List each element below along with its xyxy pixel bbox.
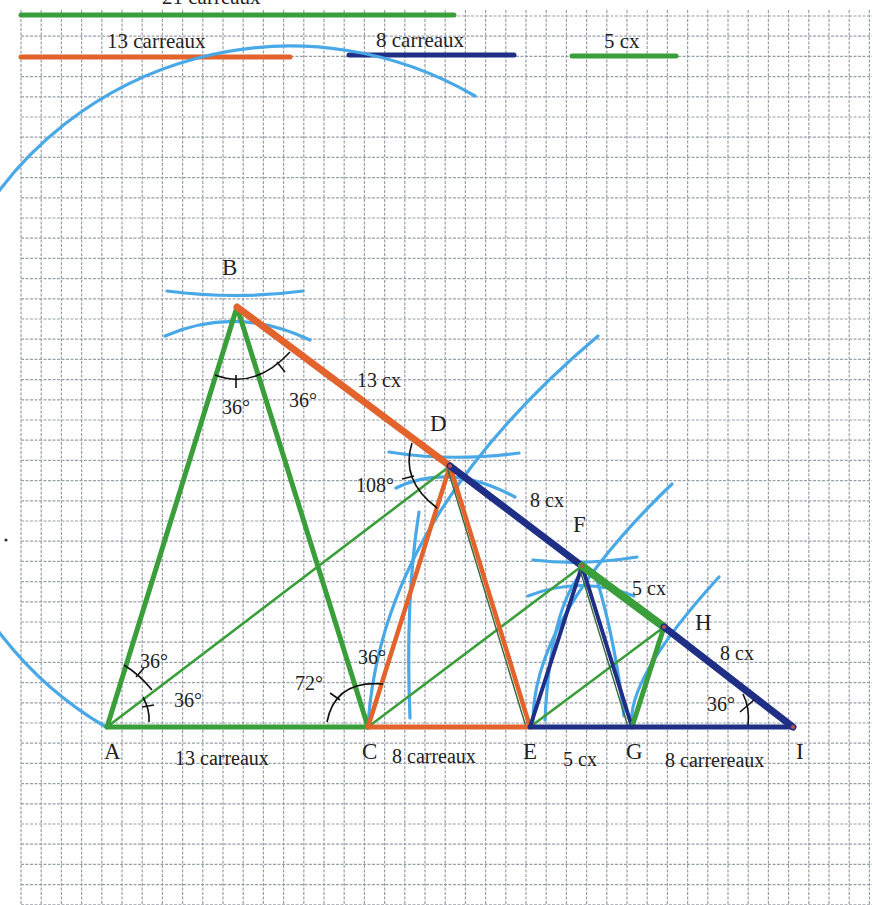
label-angle-B-left: 36° <box>222 396 250 418</box>
label-D: D <box>430 411 447 436</box>
label-C: C <box>362 739 377 764</box>
label-seg-DF: 8 cx <box>530 489 564 511</box>
legend-label-5: 5 cx <box>604 29 640 53</box>
legend-label-8: 8 carreaux <box>376 28 465 52</box>
thin-diagonals <box>107 466 664 727</box>
label-angle-D-108: 108° <box>356 474 394 496</box>
label-I: I <box>796 739 804 764</box>
label-A: A <box>104 739 121 764</box>
label-G: G <box>626 739 643 764</box>
label-seg-HI: 8 cx <box>720 642 754 664</box>
tick-I <box>740 700 754 712</box>
label-angle-C-72: 72° <box>295 672 323 694</box>
legend-label-13: 13 carreaux <box>107 29 206 53</box>
side-E-F <box>530 566 582 727</box>
stray-dot <box>4 538 7 541</box>
label-angle-A-upper: 36° <box>140 650 168 672</box>
side-A-B <box>107 307 237 727</box>
dot-H <box>662 625 666 629</box>
arc-cross-B-1 <box>167 291 303 296</box>
label-seg-CE: 8 carreaux <box>392 745 476 767</box>
label-angle-B-right: 36° <box>289 389 317 411</box>
arc-cross-B-2 <box>165 321 310 340</box>
label-seg-EG: 5 cx <box>563 748 597 770</box>
angle-marks <box>124 352 754 725</box>
dot-D <box>448 464 452 468</box>
label-B: B <box>222 255 237 280</box>
label-seg-FH: 5 cx <box>632 577 666 599</box>
side-D-E <box>450 466 530 727</box>
point-labels: A B C D E F G H I <box>104 255 804 764</box>
golden-triangle-construction-diagram: 21 carreaux 13 carreaux 8 carreaux 5 cx <box>0 0 872 905</box>
label-F: F <box>573 512 586 537</box>
side-B-C <box>237 307 368 727</box>
arc-F-down <box>597 580 624 716</box>
label-seg-GI: 8 carrereaux <box>665 749 764 771</box>
label-angle-A-lower: 36° <box>174 689 202 711</box>
angle-mark-A-lower <box>143 697 149 722</box>
tick-A-lower <box>142 705 154 707</box>
arc-A-radius-AC <box>0 46 475 727</box>
arc-C-through-D <box>368 336 598 727</box>
arc-D-down-1 <box>409 512 419 718</box>
label-seg-BD: 13 cx <box>357 369 401 391</box>
label-angle-C-36: 36° <box>358 646 386 668</box>
legend-label-21: 21 carreaux <box>162 0 261 9</box>
side-B-D <box>237 307 450 466</box>
label-angle-I-36: 36° <box>707 693 735 715</box>
angle-labels: 36° 36° 36° 36° 72° 36° 108° 36° <box>140 389 735 715</box>
arc-G-through-H <box>632 577 719 727</box>
label-seg-AC: 13 carreaux <box>175 747 269 769</box>
dot-F <box>580 564 584 568</box>
legend: 21 carreaux 13 carreaux 8 carreaux 5 cx <box>21 0 676 57</box>
side-D-E-inner <box>448 470 526 727</box>
dot-I <box>791 725 795 729</box>
label-E: E <box>523 739 537 764</box>
label-H: H <box>695 610 712 635</box>
